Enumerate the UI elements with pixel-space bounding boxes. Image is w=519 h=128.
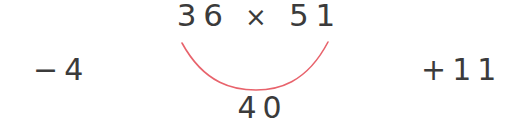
multiplication-operator: × (230, 4, 289, 30)
expression-row: 36 × 51 (0, 0, 519, 31)
rounded-value-label: 40 (0, 93, 519, 123)
math-diagram-canvas: 36 × 51 −4 +11 40 (0, 0, 519, 128)
left-operand: 36 (177, 0, 230, 31)
arc-path (182, 42, 328, 90)
left-adjustment-label: −4 (33, 55, 89, 85)
right-adjustment-label: +11 (421, 55, 502, 85)
right-operand: 51 (289, 0, 342, 31)
